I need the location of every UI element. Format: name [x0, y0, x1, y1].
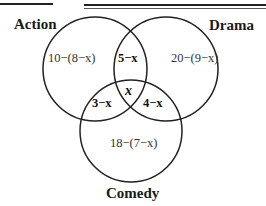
set-label-comedy: Comedy: [106, 186, 159, 201]
region-drama-comedy: 4−x: [143, 97, 163, 110]
set-label-action: Action: [14, 17, 57, 32]
region-drama-only: 20−(9−x): [171, 52, 218, 65]
region-action-comedy: 3−x: [92, 97, 112, 110]
region-action-only: 10−(8−x): [48, 52, 95, 65]
region-action-drama: 5−x: [118, 52, 138, 65]
drama-circle: [114, 17, 218, 121]
set-label-drama: Drama: [209, 18, 254, 33]
region-comedy-only: 18−(7−x): [110, 137, 157, 150]
region-all-three: x: [125, 84, 132, 98]
